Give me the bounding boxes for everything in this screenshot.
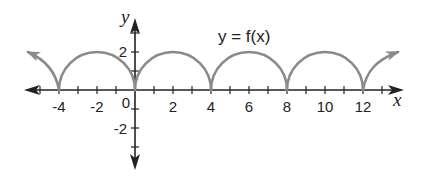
x-tick-label: -4 (52, 98, 65, 115)
x-tick-label: 12 (355, 98, 372, 115)
x-tick-label: 8 (283, 98, 291, 115)
arc-center-10 (287, 52, 363, 90)
y-tick-label: -2 (114, 120, 127, 137)
function-graph: -4 -2 0 2 4 6 8 10 12 2 -2 y x y = f(x) (0, 0, 430, 179)
curve-right-tail (363, 52, 398, 90)
arc-center-2 (135, 52, 211, 90)
y-axis (130, 18, 140, 170)
x-axis-label: x (392, 89, 402, 110)
x-tick-label: 6 (245, 98, 253, 115)
function-label: y = f(x) (218, 27, 270, 46)
x-axis (24, 85, 404, 95)
x-tick-label: 10 (317, 98, 334, 115)
function-curve (28, 52, 398, 90)
x-tick-label: -2 (90, 98, 103, 115)
x-tick-label: 4 (207, 98, 215, 115)
y-tick-label: 2 (119, 43, 127, 60)
x-tick-labels: -4 -2 0 2 4 6 8 10 12 (52, 94, 371, 115)
curve-left-tail (28, 52, 59, 90)
x-tick-label: 2 (169, 98, 177, 115)
y-axis-label: y (119, 6, 130, 27)
arc-center-6 (211, 52, 287, 90)
origin-label: 0 (122, 94, 130, 111)
